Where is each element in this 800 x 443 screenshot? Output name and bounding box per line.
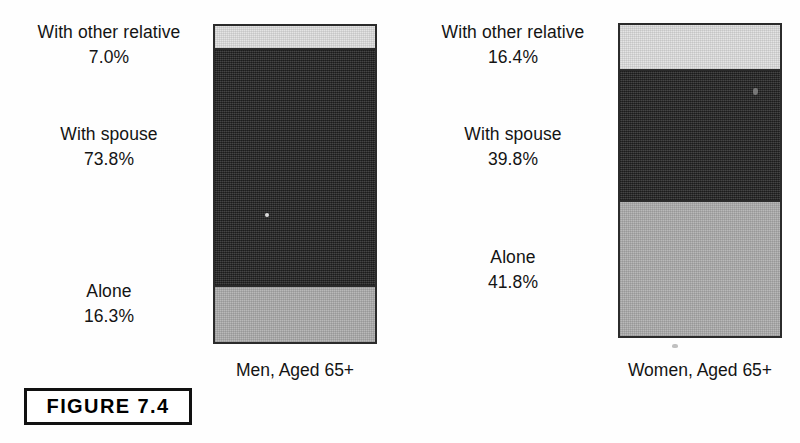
- men-segment-name-alone: Alone: [5, 281, 213, 302]
- women-bar-segment-spouse: [620, 69, 780, 199]
- men-bar-segment-alone: [215, 285, 375, 342]
- women-bar-segment-alone: [620, 200, 780, 336]
- men-label-with-other-relative: With other relative 7.0%: [5, 22, 213, 69]
- women-label-with-spouse: With spouse 39.8%: [410, 124, 616, 171]
- women-segment-name-spouse: With spouse: [410, 124, 616, 145]
- men-label-alone: Alone 16.3%: [5, 281, 213, 328]
- stacked-bar-women: [618, 23, 782, 338]
- women-segment-value-other-relative: 16.4%: [410, 47, 616, 68]
- men-bar-segment-other-relative: [215, 26, 375, 48]
- men-axis-caption: Men, Aged 65+: [205, 360, 385, 381]
- women-segment-value-alone: 41.8%: [410, 272, 616, 293]
- men-segment-value-alone: 16.3%: [5, 306, 213, 327]
- men-label-with-spouse: With spouse 73.8%: [5, 124, 213, 171]
- stacked-bar-men: [213, 24, 377, 344]
- women-label-alone: Alone 41.8%: [410, 247, 616, 294]
- women-bar-segment-other-relative: [620, 25, 780, 69]
- women-label-with-other-relative: With other relative 16.4%: [410, 22, 616, 69]
- men-segment-name-spouse: With spouse: [5, 124, 213, 145]
- women-segment-name-alone: Alone: [410, 247, 616, 268]
- women-segment-name-other-relative: With other relative: [410, 22, 616, 43]
- men-segment-value-spouse: 73.8%: [5, 149, 213, 170]
- women-segment-value-spouse: 39.8%: [410, 149, 616, 170]
- men-segment-value-other-relative: 7.0%: [5, 47, 213, 68]
- men-segment-name-other-relative: With other relative: [5, 22, 213, 43]
- figure-number-label: FIGURE 7.4: [47, 395, 170, 418]
- figure-number-box: FIGURE 7.4: [24, 388, 192, 425]
- scan-artifact-speck: [672, 344, 678, 348]
- women-axis-caption: Women, Aged 65+: [610, 360, 790, 381]
- figure-container: With other relative 7.0% With spouse 73.…: [0, 0, 800, 443]
- men-bar-segment-spouse: [215, 48, 375, 285]
